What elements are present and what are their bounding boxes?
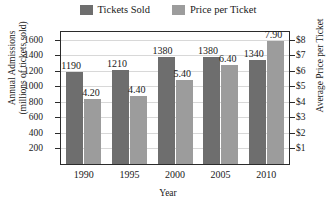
x-axis-label: 2000	[155, 169, 195, 180]
bar-price-per-ticket	[176, 80, 193, 164]
bar-value-price-per-ticket: 6.40	[219, 53, 237, 64]
left-tick-mark	[55, 117, 60, 118]
legend-label-tickets-sold: Tickets Sold	[98, 4, 150, 15]
bar-groups: 11904.2012104.4013805.4013806.4013407.90	[61, 32, 289, 164]
left-tick-mark	[55, 148, 60, 149]
chart-legend: Tickets Sold Price per Ticket	[0, 4, 336, 15]
x-axis-title: Year	[0, 188, 336, 198]
bar-tickets-sold	[203, 57, 220, 164]
left-tick-label: 200	[1, 143, 43, 153]
left-tick-mark	[55, 102, 60, 103]
bar-chart: Tickets Sold Price per Ticket Annual Adm…	[0, 0, 336, 205]
right-tick-label: $4	[296, 97, 326, 107]
bar-value-tickets-sold: 1340	[244, 48, 264, 59]
bar-value-tickets-sold: 1380	[153, 45, 173, 56]
right-tick-mark	[290, 40, 295, 41]
x-axis-label: 2010	[246, 169, 286, 180]
bar-value-tickets-sold: 1190	[61, 60, 81, 71]
bar-value-price-per-ticket: 5.40	[174, 68, 192, 79]
legend-item-price-per-ticket: Price per Ticket	[172, 4, 257, 15]
bar-tickets-sold	[112, 70, 129, 164]
bar-tickets-sold	[66, 72, 83, 164]
bar-value-tickets-sold: 1210	[107, 58, 127, 69]
right-tick-label: $7	[296, 50, 326, 60]
bar-price-per-ticket	[84, 99, 101, 164]
right-tick-label: $2	[296, 128, 326, 138]
bar-tickets-sold	[158, 57, 175, 164]
right-tick-label: $6	[296, 66, 326, 76]
right-tick-mark	[290, 133, 295, 134]
bar-price-per-ticket	[130, 96, 147, 164]
left-tick-mark	[55, 71, 60, 72]
left-tick-label: 400	[1, 128, 43, 138]
legend-swatch-tickets-sold	[80, 5, 93, 15]
legend-swatch-price-per-ticket	[172, 5, 185, 15]
x-axis-label: 1990	[64, 169, 104, 180]
right-tick-mark	[290, 71, 295, 72]
left-tick-label: 600	[1, 112, 43, 122]
left-tick-mark	[55, 40, 60, 41]
left-tick-mark	[55, 86, 60, 87]
bar-price-per-ticket	[267, 41, 284, 164]
left-tick-label: 1400	[1, 50, 43, 60]
bar-value-tickets-sold: 1380	[198, 45, 218, 56]
bar-value-price-per-ticket: 4.20	[82, 87, 100, 98]
left-tick-mark	[55, 133, 60, 134]
bar-tickets-sold	[249, 60, 266, 164]
right-tick-label: $1	[296, 143, 326, 153]
left-tick-label: 1000	[1, 81, 43, 91]
left-tick-label: 1200	[1, 66, 43, 76]
right-tick-label: $8	[296, 35, 326, 45]
bar-price-per-ticket	[221, 65, 238, 164]
left-tick-label: 1600	[1, 35, 43, 45]
right-tick-label: $3	[296, 112, 326, 122]
right-tick-mark	[290, 148, 295, 149]
right-tick-label: $5	[296, 81, 326, 91]
right-tick-mark	[290, 55, 295, 56]
left-tick-label: 800	[1, 97, 43, 107]
right-tick-mark	[290, 117, 295, 118]
bar-value-price-per-ticket: 4.40	[128, 84, 146, 95]
bar-value-price-per-ticket: 7.90	[265, 29, 283, 40]
legend-label-price-per-ticket: Price per Ticket	[190, 4, 257, 15]
right-tick-mark	[290, 86, 295, 87]
x-axis-label: 2005	[201, 169, 241, 180]
x-axis-label: 1995	[109, 169, 149, 180]
right-tick-mark	[290, 102, 295, 103]
legend-item-tickets-sold: Tickets Sold	[80, 4, 150, 15]
left-tick-mark	[55, 55, 60, 56]
